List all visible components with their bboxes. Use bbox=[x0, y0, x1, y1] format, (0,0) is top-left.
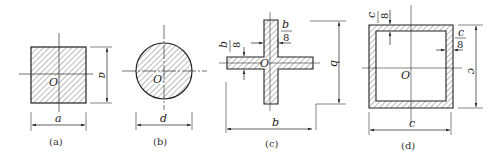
figure-d: O c 8 c 8 c c (d) bbox=[362, 5, 483, 151]
height-label: b bbox=[328, 60, 341, 67]
thickness-numerator: b bbox=[282, 18, 289, 31]
height-label: c bbox=[465, 68, 478, 74]
thickness-top-denominator: 8 bbox=[379, 13, 390, 19]
caption-c: (c) bbox=[265, 138, 279, 149]
caption-d: (d) bbox=[401, 140, 415, 151]
centroid-label: O bbox=[49, 76, 58, 89]
thickness-numerator: c bbox=[458, 26, 464, 39]
caption-a: (a) bbox=[49, 136, 63, 147]
solid-square-section bbox=[31, 47, 86, 103]
centroid-label: O bbox=[260, 57, 269, 70]
figure-a: O a a (a) bbox=[19, 33, 112, 147]
height-label: a bbox=[96, 72, 109, 79]
thickness-denominator: 8 bbox=[457, 39, 463, 50]
cross-section-diagram: O a a (a) O d (b) O b bbox=[0, 0, 494, 163]
centroid-label: O bbox=[153, 73, 162, 86]
diameter-label: d bbox=[160, 112, 167, 125]
width-label: b bbox=[272, 116, 279, 129]
caption-b: (b) bbox=[153, 136, 167, 147]
centroid-label: O bbox=[401, 69, 410, 82]
width-label: a bbox=[55, 112, 62, 125]
figure-b: O d (b) bbox=[122, 25, 207, 147]
figure-c: O b 8 b 8 b b (c) bbox=[217, 12, 346, 149]
thickness-denominator: 8 bbox=[283, 32, 289, 43]
thickness-v-denominator: 8 bbox=[231, 42, 242, 48]
thickness-top-numerator: c bbox=[365, 12, 378, 18]
width-label: c bbox=[409, 117, 415, 130]
thickness-v-numerator: b bbox=[217, 41, 230, 48]
